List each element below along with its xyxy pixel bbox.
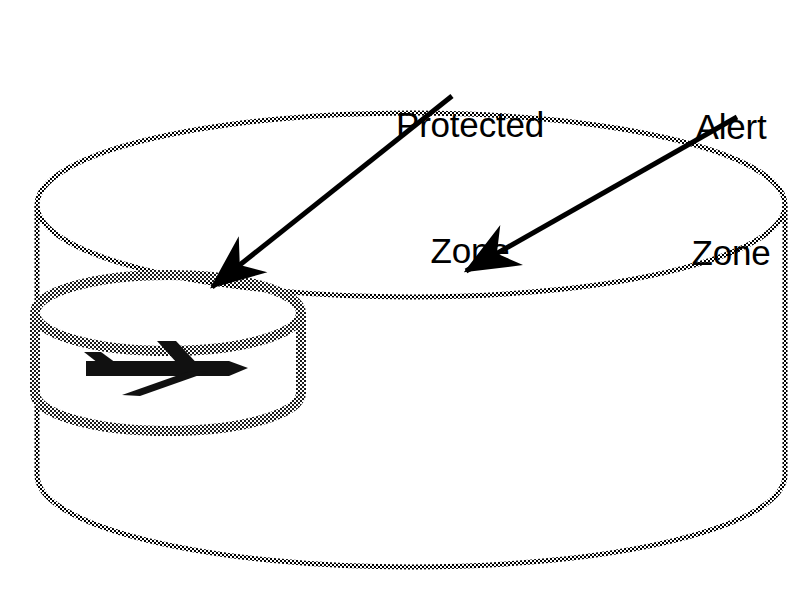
diagram-canvas: Protected Zone Alert Zone — [0, 0, 807, 593]
alert-zone-bottom-arc — [37, 475, 785, 567]
alert-zone-label-line2: Zone — [672, 232, 790, 274]
protected-zone-label-line2: Zone — [390, 230, 550, 272]
alert-zone-label: Alert Zone — [672, 22, 790, 358]
protected-zone-label-line1: Protected — [390, 104, 550, 146]
aircraft-fuselage — [86, 361, 248, 376]
protected-zone-top-ellipse — [35, 275, 301, 351]
protected-zone-bottom-arc — [35, 393, 301, 431]
protected-zone-label: Protected Zone — [390, 20, 550, 356]
alert-zone-label-line1: Alert — [672, 106, 790, 148]
